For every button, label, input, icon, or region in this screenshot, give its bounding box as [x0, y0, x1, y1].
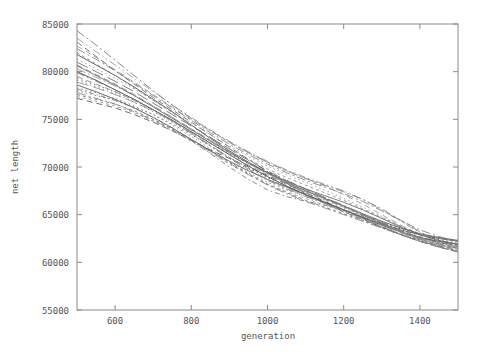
x-tick-label: 1200	[333, 316, 355, 326]
y-tick-label: 85000	[42, 20, 69, 30]
series-line	[77, 46, 458, 248]
y-tick-label: 65000	[42, 210, 69, 220]
series-line	[77, 49, 458, 242]
y-tick-label: 60000	[42, 258, 69, 268]
series-line	[77, 31, 458, 246]
series-line	[77, 89, 458, 246]
chart-figure: 6008001000120014005500060000650007000075…	[0, 0, 478, 352]
series-line	[77, 78, 458, 243]
plot-frame	[77, 24, 458, 310]
series-line	[77, 85, 458, 241]
chart-tick-labels: 6008001000120014005500060000650007000075…	[42, 20, 431, 327]
x-tick-label: 1400	[409, 316, 431, 326]
x-tick-label: 600	[107, 316, 123, 326]
chart-axes	[77, 24, 458, 310]
y-tick-label: 75000	[42, 115, 69, 125]
series-line	[77, 65, 458, 252]
x-axis-title: generation	[241, 331, 295, 341]
y-tick-label: 55000	[42, 306, 69, 316]
series-line	[77, 53, 458, 246]
y-tick-label: 80000	[42, 67, 69, 77]
chart-series-group	[77, 31, 458, 252]
y-tick-label: 70000	[42, 163, 69, 173]
series-line	[77, 66, 458, 244]
series-line	[77, 91, 458, 248]
series-line	[77, 72, 458, 245]
x-tick-label: 1000	[257, 316, 279, 326]
series-line	[77, 73, 458, 248]
series-line	[77, 55, 458, 241]
line-chart: 6008001000120014005500060000650007000075…	[0, 0, 478, 352]
series-line	[77, 62, 458, 246]
series-line	[77, 38, 458, 247]
x-tick-label: 800	[183, 316, 199, 326]
y-axis-title: net length	[10, 140, 20, 194]
